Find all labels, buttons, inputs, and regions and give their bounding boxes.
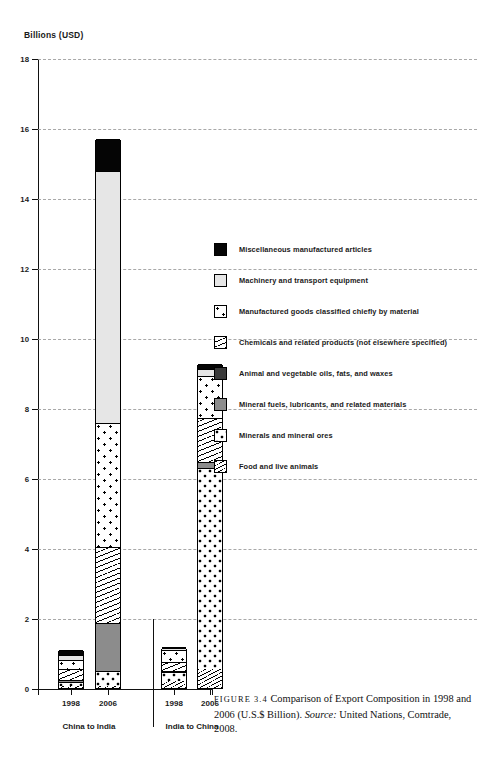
legend-item-label: Chemicals and related products (not else… [239, 337, 447, 349]
y-axis-tick [32, 549, 38, 550]
bar-segment [59, 680, 83, 682]
legend-item[interactable]: Manufactured goods classified chiefly by… [214, 305, 476, 336]
y-axis-title: Billions (USD) [24, 30, 83, 40]
swatch-star-dots [214, 305, 227, 318]
legend-item-label: Food and live animals [239, 461, 318, 473]
y-axis-tick-label: 14 [20, 195, 29, 204]
bar-segment [162, 648, 186, 649]
x-axis-group-label: India to China [166, 722, 219, 731]
y-axis-tick [32, 269, 38, 270]
y-axis-tick-label: 12 [20, 265, 29, 274]
y-axis-tick [32, 479, 38, 480]
legend-item-label: Machinery and transport equipment [239, 275, 368, 287]
legend-item[interactable]: Machinery and transport equipment [214, 274, 476, 305]
legend-item-label: Manufactured goods classified chiefly by… [239, 306, 419, 318]
bar-segment [59, 660, 83, 669]
y-axis-tick-label: 10 [20, 335, 29, 344]
bar-segment [162, 681, 186, 688]
y-axis-line [38, 59, 39, 689]
y-axis-tick [32, 619, 38, 620]
bar-segment [162, 647, 186, 648]
bar-segment [59, 650, 83, 655]
gridline [38, 129, 477, 130]
bar-segment [198, 468, 222, 669]
y-axis-tick [32, 339, 38, 340]
y-axis-tick [32, 409, 38, 410]
x-axis-category-label: 1998 [62, 699, 80, 708]
legend-item-label: Minerals and mineral ores [239, 430, 333, 442]
x-axis-category-label: 1998 [165, 699, 183, 708]
caption-source-label: Source: [305, 709, 337, 720]
bar-segment [162, 672, 186, 681]
legend-item[interactable]: Minerals and mineral ores [214, 429, 476, 460]
legend-item[interactable]: Animal and vegetable oils, fats, and wax… [214, 367, 476, 398]
y-axis-tick-label: 16 [20, 125, 29, 134]
y-axis-tick-label: 18 [20, 55, 29, 64]
y-axis-tick-label: 0 [25, 685, 29, 694]
legend-item-label: Miscellaneous manufactured articles [239, 244, 372, 256]
legend-item-label: Mineral fuels, lubricants, and related m… [239, 399, 406, 411]
bar-china-to-india-2006 [95, 140, 121, 690]
bar-segment [96, 671, 120, 687]
gridline [38, 59, 477, 60]
bar-segment [96, 547, 120, 622]
figure-caption: FIGURE 3.4 Comparison of Export Composit… [214, 692, 472, 737]
legend-item[interactable]: Mineral fuels, lubricants, and related m… [214, 398, 476, 429]
swatch-solid-black [214, 243, 227, 256]
legend-item[interactable]: Food and live animals [214, 460, 476, 491]
bar-segment [162, 650, 186, 662]
x-axis-tick [38, 689, 39, 695]
y-axis-tick-label: 4 [25, 545, 29, 554]
x-axis-tick [71, 689, 72, 695]
x-axis-tick [108, 689, 109, 695]
bar-segment [59, 669, 83, 680]
y-axis-tick-label: 8 [25, 405, 29, 414]
bar-china-to-india-1998 [58, 651, 84, 690]
y-axis-tick-label: 6 [25, 475, 29, 484]
x-axis-line [38, 689, 212, 690]
bar-segment [59, 686, 83, 688]
swatch-dark-gray [214, 367, 227, 380]
legend-item-label: Animal and vegetable oils, fats, and wax… [239, 368, 393, 380]
swatch-light-gray [214, 274, 227, 287]
x-axis-tick [210, 689, 211, 695]
bar-india-to-china-1998 [161, 649, 187, 689]
y-axis-tick [32, 129, 38, 130]
swatch-large-dots [214, 429, 227, 442]
bar-segment [96, 686, 120, 688]
bar-segment [162, 662, 186, 671]
y-axis-tick [32, 199, 38, 200]
y-axis-tick-label: 2 [25, 615, 29, 624]
swatch-fine-hatch [214, 460, 227, 473]
bar-segment [96, 423, 120, 547]
figure-container: Billions (USD) 024681012141618 199820061… [0, 0, 477, 771]
bar-segment [198, 669, 222, 688]
x-axis-category-label: 2006 [99, 699, 117, 708]
group-divider [153, 619, 154, 727]
bar-segment [59, 655, 83, 661]
bar-segment [96, 623, 120, 670]
legend: Miscellaneous manufactured articlesMachi… [214, 243, 476, 491]
legend-item[interactable]: Miscellaneous manufactured articles [214, 243, 476, 274]
x-axis-tick [174, 689, 175, 695]
x-axis-group-label: China to India [63, 722, 116, 731]
figure-number: FIGURE 3.4 [214, 695, 268, 704]
plot-area: 024681012141618 [38, 59, 212, 689]
x-axis-tick [212, 689, 213, 695]
bar-segment [96, 171, 120, 423]
y-axis-tick [32, 59, 38, 60]
legend-item[interactable]: Chemicals and related products (not else… [214, 336, 476, 367]
swatch-mid-gray [214, 398, 227, 411]
swatch-wavy-lines [214, 336, 227, 349]
bar-segment [96, 139, 120, 172]
bar-segment [59, 682, 83, 686]
